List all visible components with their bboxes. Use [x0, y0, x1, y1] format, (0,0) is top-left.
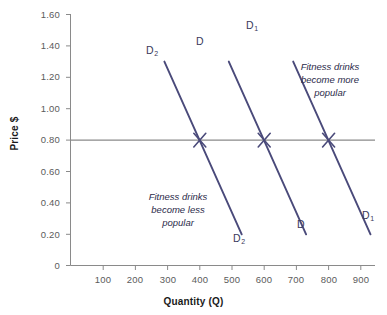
curve-label-d1-bottom-text: D: [362, 209, 370, 221]
y-tick-label-080: 0.80: [26, 134, 60, 145]
x-tick-label-800: 800: [312, 274, 346, 285]
y-tick-label-100: 1.00: [26, 103, 60, 114]
curve-label-d1-top: D1: [246, 19, 258, 31]
curve-label-d2-bottom: D2: [233, 232, 245, 244]
annotation-become-less-popular: Fitness drinks become less popular: [128, 190, 228, 229]
x-tick-label-400: 400: [183, 274, 217, 285]
curve-label-d2-top-sub: 2: [154, 50, 158, 57]
curve-label-d2-bottom-text: D: [233, 232, 241, 244]
curve-label-d-top: D: [196, 35, 204, 47]
demand-shift-chart: 1.60 1.40 1.20 1.00 0.80 0.60 0.40 0.20 …: [0, 0, 387, 315]
y-tick-label-0: 0: [26, 260, 60, 271]
y-tick-label-140: 1.40: [26, 40, 60, 51]
x-axis-ticks: [103, 266, 361, 271]
annotation-become-more-popular: Fitness drinks become more popular: [278, 60, 382, 99]
y-tick-label-020: 0.20: [26, 229, 60, 240]
x-tick-label-900: 900: [344, 274, 378, 285]
y-tick-label-120: 1.20: [26, 71, 60, 82]
curve-label-d2-top-text: D: [146, 44, 154, 56]
y-axis-title: Price $: [9, 104, 20, 164]
x-tick-label-100: 100: [86, 274, 120, 285]
curve-label-d1-top-sub: 1: [254, 25, 258, 32]
x-tick-label-200: 200: [118, 274, 152, 285]
x-tick-label-700: 700: [279, 274, 313, 285]
curve-label-d2-bottom-sub: 2: [241, 238, 245, 245]
x-axis-title: Quantity (Q): [0, 296, 387, 307]
x-tick-label-600: 600: [247, 274, 281, 285]
curve-label-d-top-text: D: [196, 35, 204, 47]
curve-label-d1-bottom: D1: [362, 209, 374, 221]
curve-label-d2-top: D2: [146, 44, 158, 56]
curve-label-d1-top-text: D: [246, 19, 254, 31]
y-tick-label-060: 0.60: [26, 166, 60, 177]
curve-label-d1-bottom-sub: 1: [370, 215, 374, 222]
y-tick-label-160: 1.60: [26, 9, 60, 20]
y-axis-ticks: [66, 15, 71, 266]
x-tick-label-500: 500: [215, 274, 249, 285]
y-tick-label-040: 0.40: [26, 197, 60, 208]
curve-label-d-bottom: D: [297, 218, 305, 230]
curve-label-d-bottom-text: D: [297, 218, 305, 230]
x-tick-label-300: 300: [151, 274, 185, 285]
